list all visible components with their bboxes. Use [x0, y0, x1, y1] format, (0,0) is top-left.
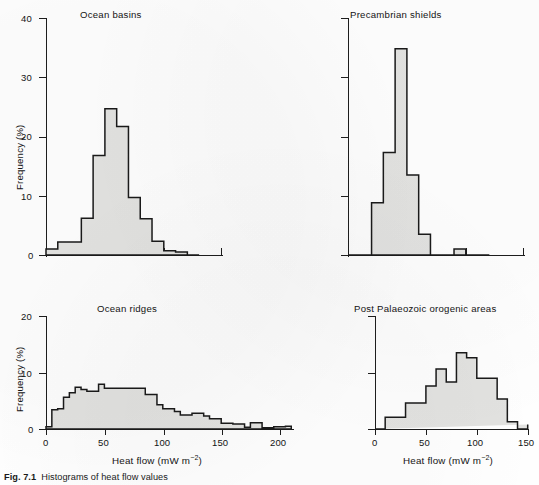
histogram-plot — [280, 0, 539, 280]
x-axis-title-main: Heat flow (mW m — [112, 455, 190, 466]
figure-caption: Fig. 7.1 Histograms of heat flow values — [4, 472, 168, 482]
x-axis-title-exponent: −2 — [190, 454, 198, 461]
histogram-outline — [46, 384, 291, 429]
x-axis-title-close: ) — [199, 455, 202, 466]
histogram-outline — [348, 49, 489, 255]
panel-ocean-ridges: Ocean ridges Frequency (%) 20 10 0 0 50 … — [0, 290, 280, 485]
histogram-plot — [0, 290, 300, 450]
histogram-outline — [46, 109, 199, 255]
panel-precambrian-shields: Precambrian shields — [280, 0, 539, 280]
x-axis-title: Heat flow (mW m−2) — [112, 454, 202, 466]
panel-post-palaeozoic-orogenic-areas: Post Palaeozoic orogenic areas 0 50 100 … — [280, 290, 539, 485]
x-axis-title-close: ) — [490, 455, 493, 466]
figure-caption-number: Fig. 7.1 — [4, 472, 36, 482]
heat-flow-histogram-figure: Ocean basins Frequency (%) 40 30 20 10 0… — [0, 0, 539, 485]
x-axis-title-exponent: −2 — [481, 454, 489, 461]
x-axis-title: Heat flow (mW m−2) — [403, 454, 493, 466]
figure-caption-text: Histograms of heat flow values — [41, 472, 168, 482]
histogram-outline — [375, 353, 528, 429]
histogram-plot — [0, 0, 280, 280]
panel-ocean-basins: Ocean basins Frequency (%) 40 30 20 10 0 — [0, 0, 280, 280]
x-axis-title-main: Heat flow (mW m — [403, 455, 481, 466]
histogram-plot — [280, 290, 539, 450]
